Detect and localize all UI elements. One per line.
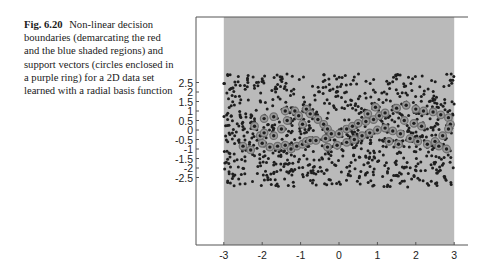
support-vector bbox=[324, 143, 332, 151]
data-point bbox=[391, 118, 394, 121]
x-tick-label: 0 bbox=[336, 249, 342, 261]
data-point bbox=[269, 178, 272, 181]
data-point bbox=[354, 109, 357, 112]
data-point bbox=[359, 183, 362, 186]
data-point bbox=[434, 80, 437, 83]
data-point bbox=[223, 168, 226, 171]
data-point bbox=[327, 78, 330, 81]
data-point bbox=[263, 179, 266, 182]
support-vector bbox=[351, 136, 359, 144]
support-vector bbox=[274, 142, 282, 150]
data-point bbox=[279, 169, 282, 172]
data-point bbox=[403, 180, 406, 183]
data-point bbox=[293, 155, 296, 158]
data-point bbox=[238, 110, 241, 113]
data-point bbox=[344, 74, 347, 77]
support-vector bbox=[251, 122, 259, 130]
data-point bbox=[377, 98, 380, 101]
data-point bbox=[323, 73, 326, 76]
data-point bbox=[430, 126, 433, 129]
data-point bbox=[414, 75, 417, 78]
data-point bbox=[227, 97, 230, 100]
data-point bbox=[244, 88, 247, 91]
data-point bbox=[365, 156, 368, 159]
data-point bbox=[230, 104, 233, 107]
data-point bbox=[233, 104, 236, 107]
data-point bbox=[364, 92, 367, 95]
data-point bbox=[244, 160, 247, 163]
data-point bbox=[244, 139, 247, 142]
support-vector bbox=[270, 132, 278, 140]
data-point bbox=[397, 116, 400, 119]
data-point bbox=[358, 112, 361, 115]
data-point bbox=[301, 166, 304, 169]
data-point bbox=[276, 83, 279, 86]
data-point bbox=[240, 173, 243, 176]
data-point bbox=[332, 104, 335, 107]
data-point bbox=[320, 156, 323, 159]
data-point bbox=[430, 163, 433, 166]
data-point bbox=[300, 132, 303, 135]
data-point bbox=[394, 75, 397, 78]
data-point bbox=[373, 155, 376, 158]
data-point bbox=[253, 154, 256, 157]
data-point bbox=[345, 166, 348, 169]
x-tick-label: -2 bbox=[258, 249, 267, 261]
data-point bbox=[226, 140, 229, 143]
data-point bbox=[307, 128, 310, 131]
data-point bbox=[357, 105, 360, 108]
data-point bbox=[274, 90, 277, 93]
support-vector bbox=[278, 125, 286, 133]
data-point bbox=[279, 163, 282, 166]
support-vector bbox=[412, 105, 420, 113]
data-point bbox=[326, 117, 329, 120]
data-point bbox=[253, 135, 256, 138]
data-point bbox=[423, 89, 426, 92]
data-point bbox=[271, 104, 274, 107]
data-point bbox=[284, 162, 287, 165]
data-point bbox=[233, 142, 236, 145]
data-point bbox=[418, 85, 421, 88]
data-point bbox=[238, 101, 241, 104]
data-point bbox=[302, 154, 305, 157]
support-vector bbox=[424, 140, 432, 148]
data-point bbox=[334, 95, 337, 98]
data-point bbox=[358, 175, 361, 178]
support-vector bbox=[312, 137, 320, 145]
data-point bbox=[343, 91, 346, 94]
data-point bbox=[433, 101, 436, 104]
data-point bbox=[258, 157, 261, 160]
data-point bbox=[382, 140, 385, 143]
data-point bbox=[271, 98, 274, 101]
data-point bbox=[449, 161, 452, 164]
data-point bbox=[273, 161, 276, 164]
support-vector bbox=[402, 102, 410, 110]
data-point bbox=[442, 162, 445, 165]
data-point bbox=[246, 131, 249, 134]
support-vector bbox=[260, 129, 268, 137]
data-point bbox=[399, 74, 402, 77]
data-point bbox=[293, 138, 296, 141]
support-vector bbox=[270, 113, 278, 121]
data-point bbox=[228, 88, 231, 91]
support-vector bbox=[322, 135, 330, 143]
data-point bbox=[246, 81, 249, 84]
data-point bbox=[428, 100, 431, 103]
data-point bbox=[237, 75, 240, 78]
data-point bbox=[432, 94, 435, 97]
data-point bbox=[302, 75, 305, 78]
data-point bbox=[225, 91, 228, 94]
data-point bbox=[323, 172, 326, 175]
data-point bbox=[373, 167, 376, 170]
data-point bbox=[344, 100, 347, 103]
data-point bbox=[236, 158, 239, 161]
support-vector bbox=[418, 122, 426, 130]
data-point bbox=[343, 118, 346, 121]
data-point bbox=[421, 75, 424, 78]
data-point bbox=[233, 81, 236, 84]
data-point bbox=[306, 174, 309, 177]
support-vector bbox=[439, 132, 447, 140]
data-point bbox=[331, 161, 334, 164]
data-point bbox=[256, 147, 259, 150]
data-point bbox=[364, 174, 367, 177]
